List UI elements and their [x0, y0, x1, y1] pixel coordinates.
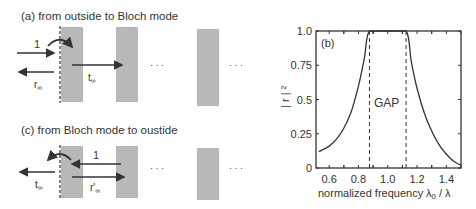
- ellipsis-1: · · ·: [150, 60, 164, 70]
- transmission-label: t∞: [88, 72, 96, 84]
- x-tick-label: 1.2: [409, 173, 424, 185]
- y-tick-labels: 00.250.50.751.0: [291, 25, 312, 174]
- panel-a-title: (a) from outside to Bloch mode: [21, 10, 178, 22]
- panel-c: (c) from Bloch mode to oustide 1 t∞ r'∞ …: [20, 124, 243, 200]
- x-tick-labels: 0.60.81.01.21.4: [322, 173, 454, 185]
- x-tick-label: 1.0: [380, 173, 395, 185]
- reflection-label: r'∞: [90, 182, 100, 194]
- y-tick-label: 0.25: [291, 128, 312, 140]
- x-tick-label: 1.4: [439, 173, 454, 185]
- y-tick-label: 1.0: [297, 25, 312, 37]
- panel-a: (a) from outside to Bloch mode 1 r∞ t∞ ·…: [17, 10, 243, 106]
- incident-label: 1: [34, 38, 40, 50]
- incident-label: 1: [93, 149, 99, 161]
- gap-annotation: GAP: [374, 96, 399, 110]
- x-tick-label: 0.8: [351, 173, 366, 185]
- slab-1: [61, 146, 83, 198]
- ellipsis-2: · · ·: [229, 163, 243, 173]
- ellipsis-2: · · ·: [229, 60, 243, 70]
- slab-3: [197, 29, 219, 106]
- ellipsis-1: · · ·: [150, 163, 164, 173]
- y-tick-label: 0.75: [291, 59, 312, 71]
- slab-2: [116, 146, 138, 198]
- panel-b-label: (b): [321, 37, 334, 49]
- transmission-label: t∞: [35, 179, 43, 191]
- figure: (a) from outside to Bloch mode 1 r∞ t∞ ·…: [0, 0, 476, 209]
- y-axis-label: | r | ²: [279, 85, 291, 108]
- reflection-label: r∞: [34, 79, 42, 91]
- panel-c-title: (c) from Bloch mode to oustide: [21, 124, 178, 136]
- slab-3: [197, 148, 219, 200]
- y-tick-label: 0.5: [297, 94, 312, 106]
- x-axis-label: normalized frequency: [318, 187, 424, 199]
- y-tick-label: 0: [306, 162, 312, 174]
- x-tick-label: 0.6: [322, 173, 337, 185]
- reflectance-chart: 00.250.50.751.0 0.60.81.01.21.4 (b) GAP …: [279, 25, 461, 201]
- x-axis-symbol: λ0 / λ: [426, 187, 451, 201]
